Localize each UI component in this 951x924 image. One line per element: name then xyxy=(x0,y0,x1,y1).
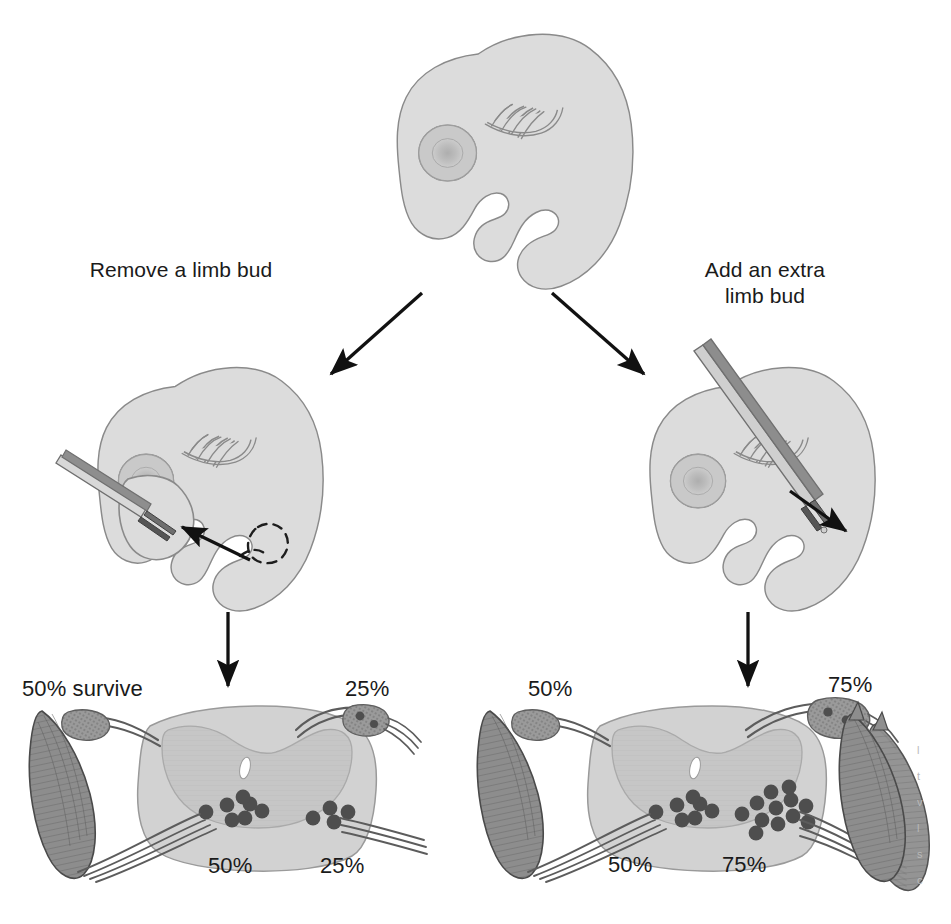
spinal-cord-cross-section-right xyxy=(477,698,929,891)
edge-caption-fragment-3: l xyxy=(917,820,951,837)
edge-caption-fragment-0: l xyxy=(917,742,951,759)
edge-caption-fragment-5: c xyxy=(917,872,951,889)
left-branch-title: Remove a limb bud xyxy=(56,258,306,283)
right-branch-title-line1: Add an extra xyxy=(660,258,870,283)
edge-caption-fragment-1: t xyxy=(917,768,951,785)
left-cord-label-bottom-right: 25% xyxy=(320,853,364,879)
right-cord-label-bottom-left: 50% xyxy=(608,852,652,878)
edge-caption-fragment-4: s xyxy=(917,846,951,863)
right-cord-label-bottom-right: 75% xyxy=(722,852,766,878)
ganglion-left xyxy=(512,710,560,741)
left-cord-label-top-left: 50% survive xyxy=(22,676,143,702)
edge-caption-fragment-2: v xyxy=(917,794,951,811)
branch-arrow-right xyxy=(552,293,644,374)
ganglion-left xyxy=(62,710,110,741)
figure-canvas: Remove a limb bud Add an extra limb bud … xyxy=(0,0,951,924)
branch-arrow-left xyxy=(331,293,422,374)
left-cord-label-top-right: 25% xyxy=(345,676,389,702)
right-cord-label-top-right: 75% xyxy=(828,672,872,698)
top-embryo xyxy=(397,34,633,289)
right-branch-title-line2: limb bud xyxy=(660,284,870,309)
right-cord-label-top-left: 50% xyxy=(528,676,572,702)
left-cord-label-bottom-left: 50% xyxy=(208,853,252,879)
diagram-artwork xyxy=(0,0,951,924)
right-embryo xyxy=(650,368,875,611)
